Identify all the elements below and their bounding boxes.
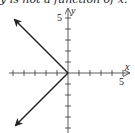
y-axis-label: y [70,5,76,16]
coordinate-plane: x 5 y 5 [0,0,135,133]
x-axis-label: x [124,61,130,72]
x-axis [9,70,129,76]
upper-ray [15,20,68,73]
y-tick-label-5: 5 [57,12,62,23]
x-tick-label-5: 5 [119,76,124,87]
lower-ray [16,73,68,125]
